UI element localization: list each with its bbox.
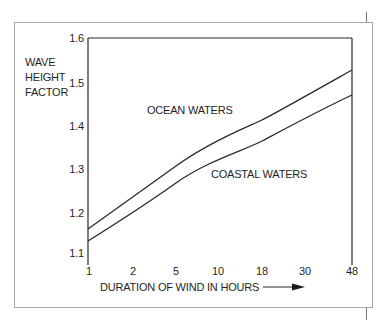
x-tick-label: 30 bbox=[299, 265, 311, 277]
y-tick-label: 1.2 bbox=[69, 207, 84, 219]
y-tick-label: 1.4 bbox=[69, 120, 84, 132]
y-tick-label: 1.1 bbox=[69, 247, 84, 259]
arrow-right-icon bbox=[263, 284, 305, 291]
y-tick-label: 1.6 bbox=[69, 32, 84, 44]
x-tick-label: 1 bbox=[86, 265, 92, 277]
x-tick-label: 48 bbox=[346, 265, 358, 277]
coastal-waters-label: COASTAL WATERS bbox=[211, 168, 307, 180]
y-tick-label: 1.5 bbox=[69, 77, 84, 89]
y-tick-label: 1.3 bbox=[69, 163, 84, 175]
ocean-waters-label: OCEAN WATERS bbox=[147, 104, 233, 116]
chart: 1.6 1.5 1.4 1.3 1.2 1.1 1 2 5 10 18 30 4… bbox=[0, 0, 391, 320]
x-tick-label: 18 bbox=[256, 265, 268, 277]
x-tick-label: 2 bbox=[130, 265, 136, 277]
x-tick-label: 5 bbox=[173, 265, 179, 277]
x-axis-title: DURATION OF WIND IN HOURS bbox=[100, 281, 259, 293]
y-tick-labels: 1.6 1.5 1.4 1.3 1.2 1.1 bbox=[69, 32, 84, 259]
ocean-waters-curve bbox=[88, 70, 352, 229]
x-tick-label: 10 bbox=[212, 265, 224, 277]
x-tick-labels: 1 2 5 10 18 30 48 bbox=[86, 265, 358, 277]
